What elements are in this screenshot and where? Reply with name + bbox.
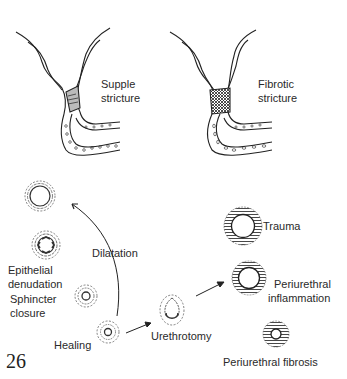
periurethral-fibrosis-circle bbox=[263, 321, 289, 347]
inflammation-arrow bbox=[196, 282, 224, 296]
periurethral-inflammation-label-line1: Periurethral bbox=[274, 278, 331, 291]
sphincter-closure-circle bbox=[75, 285, 97, 307]
trauma-circle bbox=[224, 207, 262, 245]
epithelial-label-line2: denudation bbox=[8, 278, 62, 291]
sphincter-label-line1: Sphincter bbox=[10, 293, 56, 306]
trauma-label: Trauma bbox=[263, 220, 301, 233]
fibrotic-stricture-label-line1: Fibrotic bbox=[258, 78, 294, 91]
diagram-artwork bbox=[0, 0, 347, 379]
urethrotomy-arrow bbox=[126, 322, 151, 333]
supple-stricture-label-line1: Supple bbox=[101, 78, 135, 91]
page-number: 26 bbox=[6, 350, 26, 373]
periurethral-inflammation-circle bbox=[232, 261, 266, 295]
healing-label: Healing bbox=[54, 339, 91, 352]
periurethral-inflammation-label-line2: inflammation bbox=[268, 292, 330, 305]
urethrotomy-label: Urethrotomy bbox=[151, 330, 212, 343]
urethrotomy-circle bbox=[160, 295, 184, 325]
epithelial-label-line1: Epithelial bbox=[8, 264, 53, 277]
supple-stricture-label-line2: stricture bbox=[101, 92, 140, 105]
healing-circle bbox=[97, 321, 119, 343]
sphincter-label-line2: closure bbox=[10, 307, 45, 320]
periurethral-fibrosis-label: Periurethral fibrosis bbox=[223, 356, 318, 369]
fibrotic-stricture-drawing bbox=[170, 30, 272, 155]
dilated-urethra-circle bbox=[25, 181, 55, 211]
fibrotic-stricture-label-line2: stricture bbox=[258, 92, 297, 105]
dilatation-label: Dilatation bbox=[92, 247, 138, 260]
epithelial-denudation-circle bbox=[32, 231, 60, 259]
dilatation-arrow bbox=[72, 204, 119, 316]
